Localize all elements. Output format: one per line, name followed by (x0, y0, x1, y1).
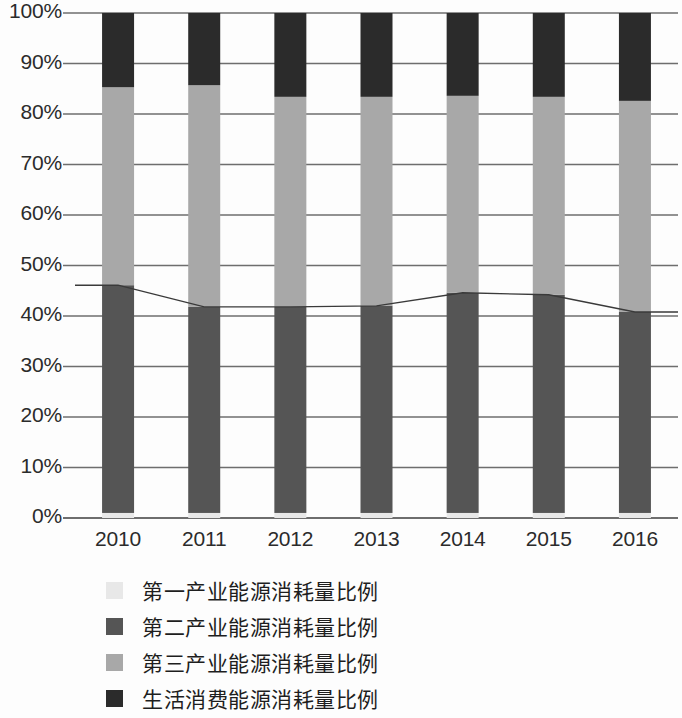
legend-item[interactable]: 第一产业能源消耗量比例 (0, 572, 682, 608)
y-axis-tick-label: 60% (0, 201, 62, 225)
legend-swatch-icon (106, 690, 123, 707)
bar-segment[interactable] (619, 13, 651, 101)
x-axis-tick-label: 2011 (169, 527, 239, 551)
legend-swatch-icon (106, 618, 123, 635)
bar-group (102, 13, 134, 518)
bar-segment[interactable] (361, 513, 393, 518)
y-axis-tick-label: 90% (0, 50, 62, 74)
x-axis-tick-label: 2014 (428, 527, 498, 551)
x-axis-tick-label: 2013 (342, 527, 412, 551)
bar-segment[interactable] (274, 513, 306, 518)
bar-segment[interactable] (361, 13, 393, 97)
bar-group (533, 13, 565, 518)
y-axis-tick-label: 100% (0, 0, 62, 23)
y-axis-tick-label: 30% (0, 353, 62, 377)
legend-swatch-icon (106, 582, 123, 599)
legend-item[interactable]: 第三产业能源消耗量比例 (0, 644, 682, 680)
x-axis-tick-label: 2010 (83, 527, 153, 551)
bar-segment[interactable] (361, 97, 393, 306)
bar-segment[interactable] (188, 513, 220, 518)
legend-label: 生活消费能源消耗量比例 (142, 683, 379, 713)
x-axis-tick-label: 2016 (600, 527, 670, 551)
y-axis-tick-label: 10% (0, 454, 62, 478)
bar-segment[interactable] (447, 13, 479, 96)
bar-segment[interactable] (619, 312, 651, 513)
bar-segment[interactable] (447, 513, 479, 518)
y-axis-tick-label: 0% (0, 504, 62, 528)
bar-segment[interactable] (188, 85, 220, 307)
bar-segment[interactable] (188, 307, 220, 513)
bar-group (447, 13, 479, 518)
bar-segment[interactable] (274, 97, 306, 307)
y-axis-tick-label: 40% (0, 302, 62, 326)
bar-segment[interactable] (102, 13, 134, 87)
legend-item[interactable]: 生活消费能源消耗量比例 (0, 680, 682, 716)
bar-segment[interactable] (619, 513, 651, 518)
x-axis-tick-label: 2012 (255, 527, 325, 551)
bar-segment[interactable] (274, 307, 306, 513)
bar-group (619, 13, 651, 518)
y-axis-tick-label: 20% (0, 403, 62, 427)
bar-segment[interactable] (102, 87, 134, 285)
legend-label: 第一产业能源消耗量比例 (142, 575, 379, 605)
legend-item[interactable]: 第二产业能源消耗量比例 (0, 608, 682, 644)
bar-group (361, 13, 393, 518)
bar-group (188, 13, 220, 518)
stacked-bar-chart (0, 0, 682, 530)
bar-segment[interactable] (447, 96, 479, 293)
bar-segment[interactable] (447, 293, 479, 513)
y-axis-tick-label: 50% (0, 252, 62, 276)
bar-segment[interactable] (533, 13, 565, 97)
bar-segment[interactable] (361, 306, 393, 513)
bar-segment[interactable] (533, 97, 565, 295)
bar-group (274, 13, 306, 518)
plot-area: 0%10%20%30%40%50%60%70%80%90%100% 201020… (0, 0, 682, 530)
bar-segment[interactable] (619, 101, 651, 312)
legend-label: 第二产业能源消耗量比例 (142, 611, 379, 641)
chart-page: 0%10%20%30%40%50%60%70%80%90%100% 201020… (0, 0, 682, 718)
bar-segment[interactable] (188, 13, 220, 85)
legend-label: 第三产业能源消耗量比例 (142, 647, 379, 677)
legend-swatch-icon (106, 654, 123, 671)
bar-segment[interactable] (102, 285, 134, 513)
bar-segment[interactable] (533, 513, 565, 518)
x-axis-tick-label: 2015 (514, 527, 584, 551)
y-axis-tick-label: 70% (0, 151, 62, 175)
chart-legend: 第一产业能源消耗量比例第二产业能源消耗量比例第三产业能源消耗量比例生活消费能源消… (0, 572, 682, 716)
bar-segment[interactable] (102, 513, 134, 518)
y-axis-tick-label: 80% (0, 100, 62, 124)
bar-segment[interactable] (274, 13, 306, 97)
bar-segment[interactable] (533, 295, 565, 513)
